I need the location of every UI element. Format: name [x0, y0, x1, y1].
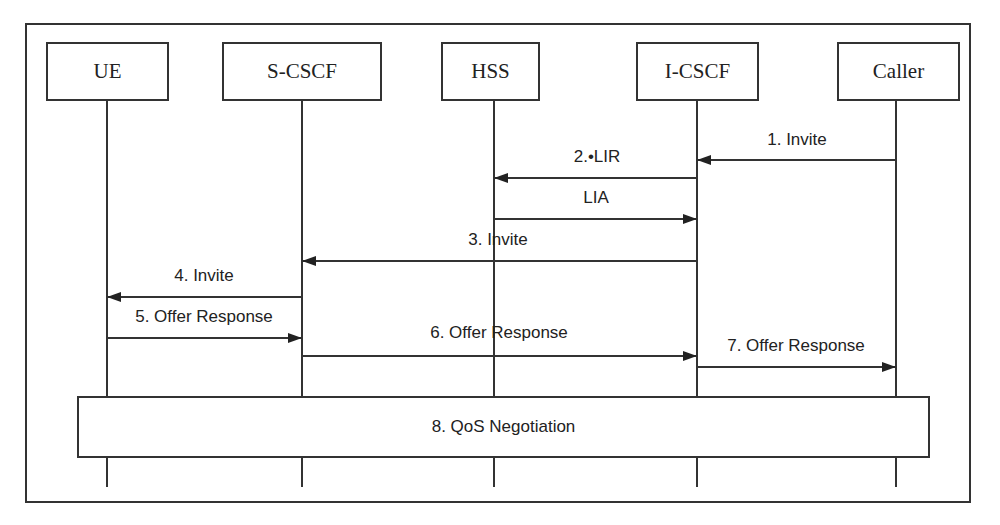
- message-label-2: 2.•LIR: [574, 147, 621, 167]
- message-label-5: 5. Offer Response: [135, 307, 273, 327]
- message-label-6: 6. Offer Response: [430, 323, 568, 343]
- message-label-4: 4. Invite: [174, 266, 234, 286]
- sequence-diagram: UE S-CSCF HSS I-CSCF Caller 1. Invite 2.…: [0, 0, 1000, 525]
- message-label-lia: LIA: [583, 188, 609, 208]
- message-label-1: 1. Invite: [767, 130, 827, 150]
- message-label-7: 7. Offer Response: [727, 336, 865, 356]
- qos-negotiation-label: 8. QoS Negotiation: [432, 417, 576, 437]
- message-label-3: 3. Invite: [468, 230, 528, 250]
- qos-negotiation-box: 8. QoS Negotiation: [77, 396, 930, 458]
